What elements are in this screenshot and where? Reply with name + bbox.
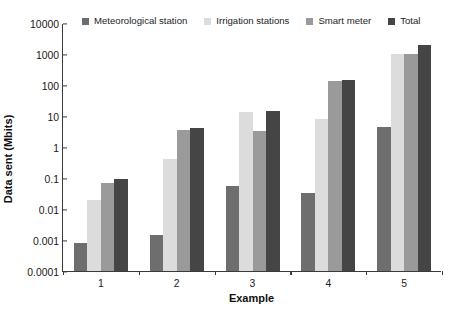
y-axis-tick-label: 10000 xyxy=(30,19,63,30)
x-axis-tick-label: 3 xyxy=(250,278,256,289)
bar[interactable] xyxy=(74,243,88,271)
bar[interactable] xyxy=(301,193,315,271)
y-axis-tick: 10000 xyxy=(30,18,63,30)
bar[interactable] xyxy=(315,119,329,271)
y-axis-tick-mark xyxy=(63,209,67,210)
y-axis-tick-label: 1 xyxy=(53,143,63,154)
bar[interactable] xyxy=(328,81,342,271)
bar[interactable] xyxy=(87,200,101,271)
bar-chart: Meteorological stationIrrigation station… xyxy=(0,0,467,318)
x-axis-tick-label: 1 xyxy=(98,278,104,289)
plot-area: 1000010001001010.10.010.0010.000112345 xyxy=(62,24,441,272)
bar[interactable] xyxy=(418,45,432,271)
bar[interactable] xyxy=(101,183,115,271)
y-axis-title: Data sent (Mbits) xyxy=(2,115,14,204)
y-axis-tick-label: 0.0001 xyxy=(27,267,63,278)
y-axis-tick-mark xyxy=(63,178,67,179)
x-axis-tick-mark xyxy=(290,271,291,275)
bar[interactable] xyxy=(163,159,177,271)
bar[interactable] xyxy=(266,111,280,271)
y-axis-tick-label: 0.001 xyxy=(33,236,63,247)
bar[interactable] xyxy=(114,179,128,271)
y-axis-tick: 0.01 xyxy=(39,204,63,216)
x-axis-tick-mark xyxy=(139,271,140,275)
bar[interactable] xyxy=(253,131,267,271)
y-axis-tick-label: 0.1 xyxy=(45,174,63,185)
x-axis-tick-mark xyxy=(63,271,64,275)
y-axis-tick-mark xyxy=(63,147,67,148)
y-axis-tick-mark xyxy=(63,85,67,86)
bar[interactable] xyxy=(391,54,405,271)
y-axis-tick: 0.1 xyxy=(45,173,63,185)
y-axis-tick-label: 0.01 xyxy=(39,205,63,216)
y-axis-tick-mark xyxy=(63,54,67,55)
y-axis-tick-label: 10 xyxy=(47,112,63,123)
y-axis-tick-mark xyxy=(63,116,67,117)
y-axis-tick-mark xyxy=(63,240,67,241)
y-axis-tick-label: 1000 xyxy=(36,50,63,61)
bar[interactable] xyxy=(342,80,356,271)
x-axis-tick-mark xyxy=(442,271,443,275)
y-axis-tick: 1 xyxy=(53,142,63,154)
bar[interactable] xyxy=(190,128,204,271)
y-axis-tick: 10 xyxy=(47,111,63,123)
bar[interactable] xyxy=(177,130,191,271)
bar[interactable] xyxy=(404,54,418,271)
y-axis-tick: 0.001 xyxy=(33,235,63,247)
bar[interactable] xyxy=(150,235,164,271)
x-axis-tick-label: 5 xyxy=(401,278,407,289)
y-axis-tick: 1000 xyxy=(36,49,63,61)
x-axis-tick-mark xyxy=(215,271,216,275)
bar[interactable] xyxy=(377,127,391,271)
y-axis-tick: 0.0001 xyxy=(27,266,63,278)
x-axis-title: Example xyxy=(62,292,441,304)
y-axis-tick-mark xyxy=(63,23,67,24)
y-axis-tick-label: 100 xyxy=(42,81,63,92)
bar[interactable] xyxy=(226,186,240,271)
y-axis-tick: 100 xyxy=(42,80,63,92)
x-axis-tick-label: 4 xyxy=(325,278,331,289)
x-axis-tick-mark xyxy=(366,271,367,275)
bar[interactable] xyxy=(239,112,253,271)
x-axis-tick-label: 2 xyxy=(174,278,180,289)
